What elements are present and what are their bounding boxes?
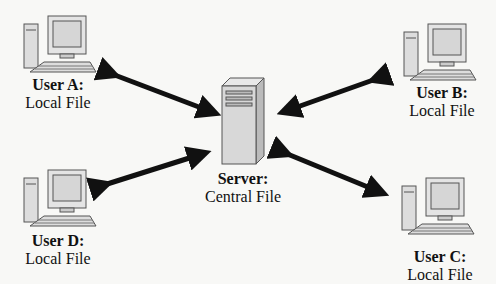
server-icon [218, 76, 268, 166]
user-c-subtitle: Local File [385, 266, 495, 284]
user-c-label: User C: Local File [385, 248, 495, 284]
user-c-node [400, 176, 480, 236]
user-d-node [22, 168, 102, 228]
user-a-node [22, 14, 102, 74]
user-b-subtitle: Local File [387, 102, 496, 120]
computer-icon [402, 22, 482, 82]
computer-icon [22, 14, 102, 74]
user-a-title: User A: [3, 76, 113, 94]
user-b-node [402, 22, 482, 82]
server-title: Server: [188, 170, 298, 188]
computer-icon [400, 176, 480, 236]
user-b-label: User B: Local File [387, 84, 496, 120]
user-d-title: User D: [3, 232, 113, 250]
user-d-subtitle: Local File [3, 250, 113, 268]
user-a-label: User A: Local File [3, 76, 113, 112]
arrow-user-b-server [286, 79, 376, 111]
server-node [218, 76, 268, 166]
user-c-title: User C: [385, 248, 495, 266]
server-subtitle: Central File [188, 188, 298, 206]
server-label: Server: Central File [188, 170, 298, 206]
arrow-user-c-server [285, 153, 380, 192]
user-d-label: User D: Local File [3, 232, 113, 268]
computer-icon [22, 168, 102, 228]
user-a-subtitle: Local File [3, 94, 113, 112]
user-b-title: User B: [387, 84, 496, 102]
arrow-user-a-server [112, 74, 212, 112]
